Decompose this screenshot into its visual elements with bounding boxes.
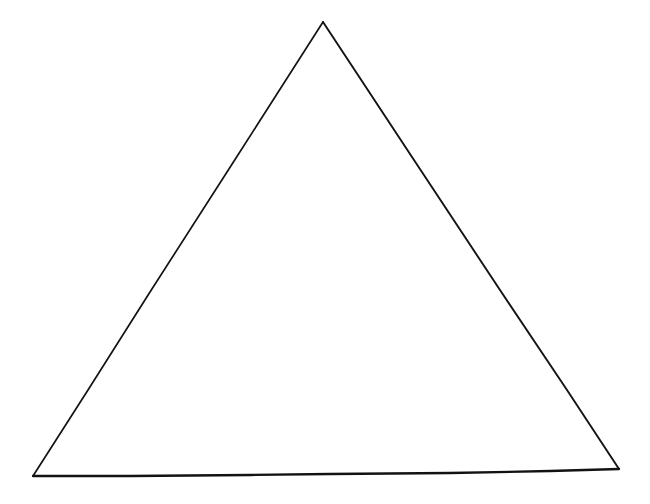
drawing-canvas — [0, 0, 650, 504]
triangle-figure — [0, 0, 650, 504]
canvas-background — [0, 0, 650, 504]
